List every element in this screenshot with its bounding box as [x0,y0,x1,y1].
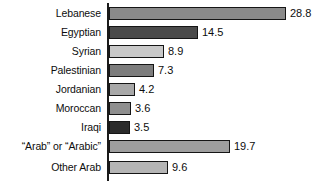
value-label: 19.7 [234,139,255,154]
bar-row: “Arab” or “Arabic” 19.7 [0,137,321,156]
value-label: 3.5 [134,120,149,135]
bar-row: Iraqi 3.5 [0,118,321,137]
bar-palestinian [109,64,154,77]
value-label: 28.8 [290,6,311,21]
bar-chart: Lebanese 28.8 Egyptian 14.5 Syrian 8.9 P… [0,0,321,189]
bar-other-arab [109,161,168,174]
bar-row: Moroccan 3.6 [0,99,321,118]
bar-row: Syrian 8.9 [0,42,321,61]
value-label: 7.3 [158,63,173,78]
category-label: Jordanian [0,80,101,99]
category-label: “Arab” or “Arabic” [0,137,101,156]
bar-iraqi [109,121,130,134]
value-label: 14.5 [202,25,223,40]
value-label: 3.6 [135,101,150,116]
value-label: 8.9 [168,44,183,59]
bar-egyptian [109,26,198,39]
bar-row: Lebanese 28.8 [0,4,321,23]
bar-row: Jordanian 4.2 [0,80,321,99]
category-label: Palestinian [0,61,101,80]
category-label: Egyptian [0,23,101,42]
bar-jordanian [109,83,135,96]
bar-row: Palestinian 7.3 [0,61,321,80]
plot-area: Lebanese 28.8 Egyptian 14.5 Syrian 8.9 P… [0,0,321,189]
category-label: Iraqi [0,118,101,137]
category-label: Moroccan [0,99,101,118]
category-label: Other Arab [0,158,101,177]
value-label: 9.6 [172,160,187,175]
bar-row: Other Arab 9.6 [0,158,321,177]
category-label: Syrian [0,42,101,61]
bar-syrian [109,45,164,58]
bar-row: Egyptian 14.5 [0,23,321,42]
bar-lebanese [109,7,286,20]
category-label: Lebanese [0,4,101,23]
bar-moroccan [109,102,131,115]
bar-arab-or-arabic [109,140,230,153]
value-label: 4.2 [139,82,154,97]
